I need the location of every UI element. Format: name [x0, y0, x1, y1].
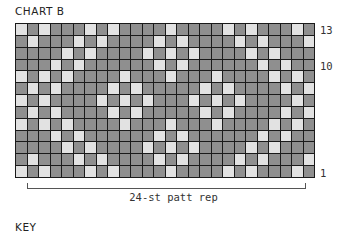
chart-cell-r7-c9 [108, 95, 119, 106]
chart-cell-r7-c18 [212, 95, 223, 106]
chart-cell-r12-c7 [85, 36, 96, 47]
chart-cell-r8-c7 [85, 83, 96, 94]
chart-cell-r8-c20 [235, 83, 246, 94]
chart-cell-r6-c14 [166, 107, 177, 118]
chart-cell-r5-c7 [85, 119, 96, 130]
chart-cell-r9-c13 [154, 71, 165, 82]
chart-cell-r1-c13 [154, 166, 165, 177]
chart-cell-r8-c25 [292, 83, 303, 94]
row-label-1: 1 [320, 167, 326, 179]
chart-cell-r4-c4 [51, 131, 62, 142]
chart-cell-r12-c12 [143, 36, 154, 47]
pattern-repeat-label: 24-st patt rep [0, 191, 343, 203]
chart-cell-r6-c19 [223, 107, 234, 118]
chart-cell-r1-c15 [177, 166, 188, 177]
chart-title: CHART B [15, 5, 64, 17]
chart-cell-r9-c16 [189, 71, 200, 82]
chart-cell-r6-c10 [120, 107, 131, 118]
chart-cell-r2-c4 [51, 154, 62, 165]
chart-cell-r4-c1 [16, 131, 27, 142]
chart-cell-r5-c8 [97, 119, 108, 130]
chart-cell-r6-c3 [39, 107, 50, 118]
chart-cell-r3-c19 [223, 142, 234, 153]
chart-cell-r1-c4 [51, 166, 62, 177]
chart-cell-r2-c15 [177, 154, 188, 165]
chart-cell-r2-c10 [120, 154, 131, 165]
chart-cell-r10-c5 [62, 60, 73, 71]
chart-cell-r4-c5 [62, 131, 73, 142]
chart-cell-r6-c21 [246, 107, 257, 118]
chart-cell-r11-c13 [154, 48, 165, 59]
chart-cell-r9-c2 [28, 71, 39, 82]
chart-cell-r4-c8 [97, 131, 108, 142]
chart-cell-r10-c21 [246, 60, 257, 71]
chart-cell-r13-c9 [108, 24, 119, 35]
chart-cell-r2-c20 [235, 154, 246, 165]
chart-cell-r5-c25 [292, 119, 303, 130]
chart-cell-r7-c16 [189, 95, 200, 106]
chart-cell-r6-c11 [131, 107, 142, 118]
chart-cell-r10-c14 [166, 60, 177, 71]
chart-cell-r11-c12 [143, 48, 154, 59]
chart-cell-r3-c13 [154, 142, 165, 153]
chart-cell-r1-c14 [166, 166, 177, 177]
chart-cell-r7-c8 [97, 95, 108, 106]
chart-cell-r4-c24 [281, 131, 292, 142]
chart-cell-r8-c6 [74, 83, 85, 94]
chart-cell-r13-c14 [166, 24, 177, 35]
chart-cell-r9-c23 [269, 71, 280, 82]
chart-cell-r3-c22 [258, 142, 269, 153]
chart-cell-r13-c11 [131, 24, 142, 35]
chart-cell-r11-c25 [292, 48, 303, 59]
chart-cell-r4-c2 [28, 131, 39, 142]
chart-cell-r5-c24 [281, 119, 292, 130]
chart-cell-r2-c14 [166, 154, 177, 165]
chart-cell-r1-c20 [235, 166, 246, 177]
chart-cell-r2-c13 [154, 154, 165, 165]
chart-cell-r8-c3 [39, 83, 50, 94]
chart-cell-r2-c16 [189, 154, 200, 165]
chart-cell-r13-c12 [143, 24, 154, 35]
chart-cell-r2-c7 [85, 154, 96, 165]
chart-cell-r13-c4 [51, 24, 62, 35]
chart-cell-r12-c6 [74, 36, 85, 47]
chart-cell-r6-c9 [108, 107, 119, 118]
chart-cell-r9-c5 [62, 71, 73, 82]
chart-cell-r7-c22 [258, 95, 269, 106]
chart-cell-r6-c26 [304, 107, 315, 118]
chart-cell-r7-c1 [16, 95, 27, 106]
chart-cell-r8-c5 [62, 83, 73, 94]
chart-cell-r3-c4 [51, 142, 62, 153]
chart-cell-r3-c5 [62, 142, 73, 153]
chart-cell-r4-c20 [235, 131, 246, 142]
chart-cell-r11-c6 [74, 48, 85, 59]
chart-cell-r1-c1 [16, 166, 27, 177]
chart-cell-r11-c22 [258, 48, 269, 59]
chart-cell-r4-c26 [304, 131, 315, 142]
chart-cell-r10-c8 [97, 60, 108, 71]
pattern-repeat-bracket [27, 183, 306, 189]
chart-cell-r1-c17 [200, 166, 211, 177]
chart-cell-r8-c23 [269, 83, 280, 94]
chart-cell-r10-c7 [85, 60, 96, 71]
chart-cell-r2-c25 [292, 154, 303, 165]
chart-cell-r1-c25 [292, 166, 303, 177]
chart-cell-r12-c2 [28, 36, 39, 47]
chart-cell-r6-c4 [51, 107, 62, 118]
chart-cell-r9-c24 [281, 71, 292, 82]
chart-cell-r8-c9 [108, 83, 119, 94]
chart-cell-r7-c11 [131, 95, 142, 106]
chart-cell-r11-c5 [62, 48, 73, 59]
chart-cell-r13-c22 [258, 24, 269, 35]
chart-cell-r4-c6 [74, 131, 85, 142]
chart-cell-r5-c23 [269, 119, 280, 130]
chart-cell-r8-c16 [189, 83, 200, 94]
chart-cell-r1-c11 [131, 166, 142, 177]
chart-cell-r2-c3 [39, 154, 50, 165]
chart-cell-r13-c21 [246, 24, 257, 35]
chart-cell-r11-c10 [120, 48, 131, 59]
chart-cell-r9-c11 [131, 71, 142, 82]
chart-cell-r6-c20 [235, 107, 246, 118]
chart-cell-r1-c5 [62, 166, 73, 177]
chart-cell-r12-c4 [51, 36, 62, 47]
